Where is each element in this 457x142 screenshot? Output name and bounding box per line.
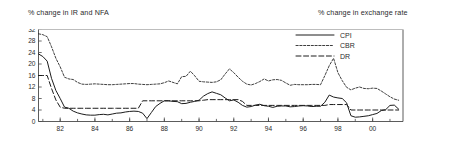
x-tick-label: 96 [300, 125, 308, 132]
y-tick-label: 16 [28, 72, 36, 79]
y-tick-label: 28 [28, 37, 36, 44]
legend-label-cpi: CPI [340, 32, 352, 39]
x-tick-label: 88 [161, 125, 169, 132]
x-tick-label: 86 [126, 125, 134, 132]
y-tick-label: 12 [28, 83, 36, 90]
x-tick-label: 00 [369, 125, 377, 132]
y-tick-label: 20 [28, 60, 36, 67]
legend-label-dr: DR [340, 53, 350, 60]
x-tick-label: 94 [265, 125, 273, 132]
legend-label-cbr: CBR [340, 42, 355, 49]
y-tick-label: 24 [28, 49, 36, 56]
y-tick-label: 4 [32, 106, 36, 113]
x-tick-label: 90 [195, 125, 203, 132]
y-tick-label: 0 [32, 118, 36, 125]
chart-title-left: % change in IR and NFA [28, 8, 109, 17]
x-tick-label: 82 [57, 125, 65, 132]
chart-figure: % change in IR and NFA % change in excha… [0, 0, 457, 142]
chart-title-right: % change in exchange rate [318, 8, 408, 17]
series-line-cpi [39, 54, 399, 119]
x-tick-label: 98 [334, 125, 342, 132]
line-chart-plot: 04812162024283282848688909294969800 CPIC… [0, 0, 457, 142]
y-tick-label: 8 [32, 95, 36, 102]
chart-legend: CPICBRDR [296, 32, 355, 60]
chart-series [0, 0, 457, 119]
x-tick-label: 84 [91, 125, 99, 132]
x-tick-label: 92 [230, 125, 238, 132]
